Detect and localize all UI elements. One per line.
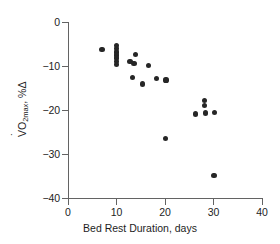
data-point bbox=[133, 52, 138, 57]
x-tick-label: 0 bbox=[48, 207, 88, 218]
data-point bbox=[114, 62, 119, 67]
data-point bbox=[163, 77, 168, 82]
x-axis-title: Bed Rest Duration, days bbox=[0, 223, 280, 234]
data-point bbox=[202, 103, 207, 108]
scatter-plot-figure: 0−10−20−30−40 010203040 Bed Rest Duratio… bbox=[0, 0, 280, 244]
x-tick-mark bbox=[116, 199, 117, 205]
x-tick-label: 30 bbox=[194, 207, 234, 218]
x-tick-label: 40 bbox=[242, 207, 280, 218]
x-tick-mark bbox=[213, 199, 214, 205]
x-tick-mark bbox=[165, 199, 166, 205]
x-tick-mark bbox=[68, 199, 69, 205]
data-point bbox=[131, 61, 136, 66]
x-tick-mark bbox=[262, 199, 263, 205]
data-point bbox=[193, 111, 198, 116]
data-point bbox=[99, 47, 104, 52]
data-point bbox=[212, 110, 217, 115]
data-point bbox=[203, 110, 208, 115]
data-point bbox=[211, 173, 216, 178]
data-point bbox=[154, 76, 159, 81]
y-axis-title: VO2max, %Δ bbox=[17, 19, 28, 199]
data-point bbox=[163, 136, 168, 141]
data-point bbox=[140, 81, 145, 86]
x-tick-label: 20 bbox=[145, 207, 185, 218]
data-point bbox=[146, 63, 151, 68]
data-point bbox=[130, 75, 135, 80]
plot-area bbox=[68, 22, 262, 198]
x-tick-label: 10 bbox=[97, 207, 137, 218]
